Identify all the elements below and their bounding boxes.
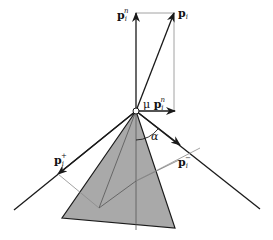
label-p-i: pi <box>178 8 188 21</box>
friction-cone-diagram <box>0 0 273 240</box>
apex-point <box>133 108 139 114</box>
label-alpha: α <box>151 131 158 142</box>
label-mu-p-i-n: μ pin <box>143 97 165 112</box>
label-p-i-plus: pi+ <box>54 153 67 168</box>
label-p-i-minus: pi− <box>178 155 191 170</box>
label-p-i-n: pin <box>117 8 128 23</box>
